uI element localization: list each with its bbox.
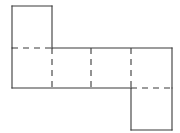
face-row-2 — [52, 48, 91, 88]
face-top-left — [12, 6, 52, 48]
face-row-4 — [131, 48, 172, 88]
net-diagram-figure — [0, 0, 180, 133]
face-row-3 — [91, 48, 131, 88]
face-row-1 — [12, 48, 52, 88]
face-fills — [12, 6, 172, 130]
net-diagram-canvas — [0, 0, 180, 133]
face-bottom-right — [131, 88, 172, 130]
